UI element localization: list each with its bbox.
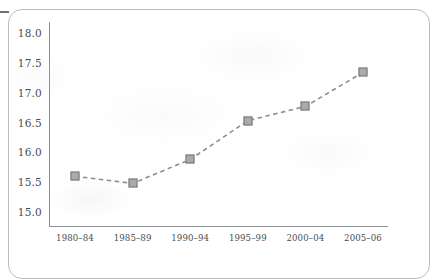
x-tick-label: 2005–06 (344, 233, 382, 243)
plot-area: 18.017.517.016.516.015.515.0 1980–841985… (49, 22, 388, 227)
x-tick-label: 2000–04 (286, 233, 324, 243)
y-tick-label: 16.0 (18, 146, 42, 158)
x-tick-label: 1990–94 (171, 233, 209, 243)
y-tick-label: 18.0 (18, 27, 42, 39)
data-point-marker (243, 116, 252, 125)
data-point-marker (359, 68, 368, 77)
y-tick-label: 15.0 (18, 206, 42, 218)
y-tick-label: 15.5 (18, 176, 42, 188)
data-point-marker (128, 179, 137, 188)
x-tick-label: 1980–84 (56, 233, 94, 243)
x-tick-label: 1995–99 (229, 233, 267, 243)
x-tick-label: 1985–89 (114, 233, 152, 243)
data-point-marker (71, 172, 80, 181)
data-point-marker (301, 102, 310, 111)
y-tick-label: 17.5 (18, 57, 42, 69)
y-tick-label: 17.0 (18, 87, 42, 99)
left-edge-tick-mark (0, 11, 9, 13)
series-line (49, 22, 388, 227)
data-point-marker (186, 155, 195, 164)
y-tick-label: 16.5 (18, 117, 42, 129)
